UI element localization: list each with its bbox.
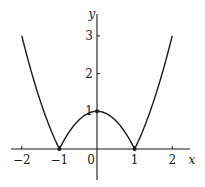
x-tick-label: −1	[51, 153, 69, 167]
plot-area: −2−1012123xy	[0, 0, 205, 187]
x-tick-label: −2	[13, 153, 31, 167]
y-tick-label: 1	[85, 104, 93, 118]
axes	[11, 14, 190, 180]
y-tick-label: 2	[85, 67, 93, 81]
marked-point	[57, 147, 61, 151]
x-axis-label: x	[189, 153, 196, 167]
x-tick-label: 0	[87, 153, 95, 167]
function-graph: −2−1012123xy	[0, 0, 205, 187]
x-tick-label: 1	[131, 153, 139, 167]
marked-point	[95, 109, 99, 113]
x-tick-label: 2	[168, 153, 176, 167]
tick-labels: −2−1012123xy	[13, 7, 196, 167]
y-tick-label: 3	[85, 29, 93, 43]
y-axis-label: y	[88, 7, 96, 21]
marked-point	[133, 147, 137, 151]
